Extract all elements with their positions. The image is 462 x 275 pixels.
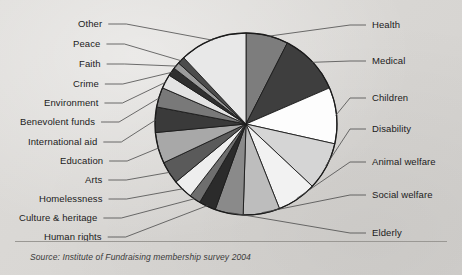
slice-label-social-welfare: Social welfare [372, 189, 433, 200]
chart-area: OtherPeaceFaithCrimeEnvironmentBenevolen… [0, 0, 462, 275]
leader-line [104, 82, 166, 103]
slice-label-disability: Disability [372, 123, 411, 134]
slice-label-medical: Medical [372, 55, 405, 66]
pie-chart-figure: OtherPeaceFaithCrimeEnvironmentBenevolen… [0, 0, 462, 275]
leader-line [107, 64, 177, 66]
slice-label-children: Children [372, 92, 408, 103]
leader-line [312, 61, 366, 62]
leader-line [336, 98, 366, 116]
leader-line [103, 120, 156, 142]
leader-line [267, 25, 366, 36]
slice-label-environment: Environment [44, 97, 98, 108]
slice-label-education: Education [60, 155, 103, 166]
leader-line [108, 24, 213, 40]
slice-label-peace: Peace [73, 38, 100, 49]
slice-label-faith: Faith [79, 58, 101, 69]
leader-line [109, 189, 184, 199]
leader-line [106, 44, 181, 61]
slice-label-crime: Crime [73, 78, 99, 89]
leader-line [105, 72, 172, 84]
slice-label-culture-heritage: Culture & heritage [19, 212, 97, 223]
slice-label-elderly: Elderly [372, 227, 402, 238]
leader-line [109, 148, 159, 161]
leader-line [108, 172, 170, 180]
slice-label-arts: Arts [85, 174, 102, 185]
slice-label-other: Other [78, 18, 102, 29]
slice-label-homelessness: Homelessness [39, 193, 103, 204]
slice-label-international-aid: International aid [28, 136, 97, 147]
source-note: Source: Institute of Fundraising members… [30, 252, 251, 262]
slice-label-animal-welfare: Animal welfare [372, 156, 436, 167]
footer-divider [15, 241, 447, 242]
slice-label-health: Health [372, 19, 400, 30]
leader-line [101, 98, 160, 122]
slice-label-benevolent-funds: Benevolent funds [20, 116, 95, 127]
leader-line [103, 199, 195, 218]
leader-line [108, 206, 208, 237]
pie-slices-group [155, 33, 337, 215]
